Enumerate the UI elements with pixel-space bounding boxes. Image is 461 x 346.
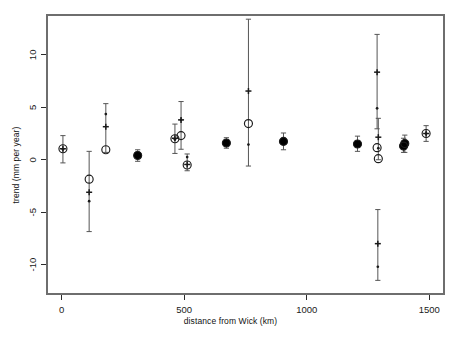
data-point-cross xyxy=(184,161,190,167)
data-point-cross xyxy=(178,117,184,123)
x-tick-label: 1500 xyxy=(419,304,440,315)
x-axis-label: distance from Wick (km) xyxy=(0,316,461,326)
y-axis-label: trend (mm per year) xyxy=(11,65,21,265)
data-point-dot xyxy=(186,156,189,159)
data-point-cross xyxy=(60,146,66,152)
data-point-dot xyxy=(376,107,379,110)
data-point-dot xyxy=(376,265,379,268)
data-point-cross xyxy=(86,189,92,195)
data-point-cross xyxy=(245,88,251,94)
scatter-plot: 050010001500-10-50510 xyxy=(0,0,461,346)
data-point-cross xyxy=(423,131,429,137)
x-tick-label: 500 xyxy=(176,304,192,315)
data-point-dot xyxy=(247,143,250,146)
x-tick-label: 1000 xyxy=(296,304,317,315)
data-point-dot xyxy=(377,147,380,150)
y-tick-label: 0 xyxy=(27,157,38,162)
plot-frame xyxy=(47,15,444,294)
y-tick-label: 10 xyxy=(27,50,38,61)
data-point-cross xyxy=(375,241,381,247)
error-bar xyxy=(178,102,183,150)
data-point-cross xyxy=(103,124,109,130)
data-point-dot xyxy=(88,200,91,203)
y-tick-label: -5 xyxy=(27,208,38,216)
error-bar xyxy=(374,34,379,128)
chart-figure: 050010001500-10-50510 distance from Wick… xyxy=(0,0,461,346)
data-point-dot xyxy=(104,113,107,116)
y-tick-label: -10 xyxy=(27,258,38,272)
y-tick-label: 5 xyxy=(27,105,38,110)
x-tick-label: 0 xyxy=(59,304,64,315)
data-point-cross xyxy=(374,69,380,75)
data-point-cross xyxy=(375,134,381,140)
